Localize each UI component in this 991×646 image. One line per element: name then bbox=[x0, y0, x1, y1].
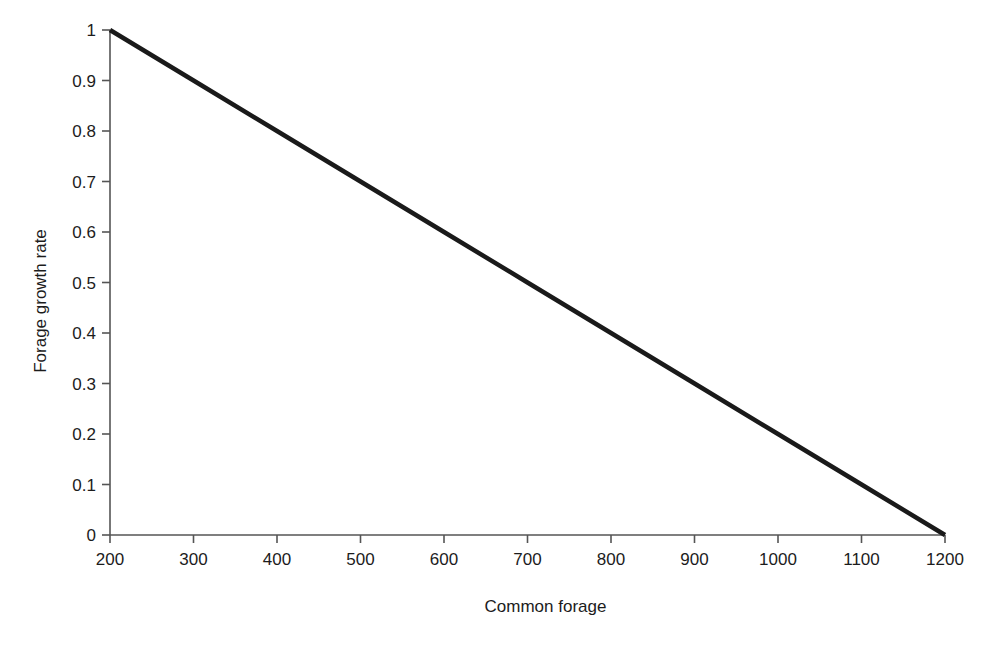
x-axis-tick-label: 1000 bbox=[759, 551, 797, 568]
x-axis-title: Common forage bbox=[485, 597, 607, 617]
x-axis-tick-label: 500 bbox=[346, 551, 374, 568]
x-axis-tick-label: 300 bbox=[179, 551, 207, 568]
y-axis-tick-label: 0.9 bbox=[72, 72, 96, 89]
y-axis-tick-label: 1 bbox=[87, 22, 96, 39]
y-axis-tick-label: 0.3 bbox=[72, 375, 96, 392]
x-axis-tick-label: 900 bbox=[680, 551, 708, 568]
y-axis-tick-label: 0.8 bbox=[72, 123, 96, 140]
x-axis-tick-label: 200 bbox=[96, 551, 124, 568]
y-axis-tick-label: 0.2 bbox=[72, 426, 96, 443]
x-axis-tick-label: 400 bbox=[263, 551, 291, 568]
x-axis-tick-label: 800 bbox=[597, 551, 625, 568]
y-axis-tick-label: 0.1 bbox=[72, 476, 96, 493]
y-axis-tick-label: 0.6 bbox=[72, 224, 96, 241]
x-axis-tick-label: 600 bbox=[430, 551, 458, 568]
x-axis-tick-label: 1100 bbox=[843, 551, 880, 568]
data-line bbox=[110, 30, 945, 535]
y-axis-tick-label: 0.5 bbox=[72, 274, 96, 291]
y-axis-tick-label: 0.7 bbox=[72, 173, 96, 190]
y-axis-tick-label: 0.4 bbox=[72, 325, 96, 342]
y-axis-tick-label: 0 bbox=[87, 527, 96, 544]
x-axis-tick-label: 700 bbox=[513, 551, 541, 568]
y-axis-title: Forage growth rate bbox=[31, 229, 51, 373]
chart-container: 00.10.20.30.40.50.60.70.80.9120030040050… bbox=[0, 0, 991, 646]
x-axis-tick-label: 1200 bbox=[926, 551, 964, 568]
